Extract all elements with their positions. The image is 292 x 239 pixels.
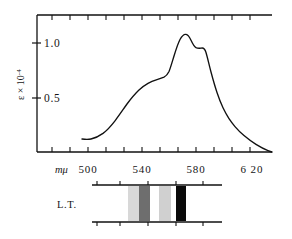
x-tick-label-580: 580 bbox=[186, 163, 205, 175]
y-axis-label-base: ε × 10 bbox=[15, 75, 26, 100]
x-axis-unit-label: mμ bbox=[55, 164, 68, 175]
svg-text:ε × 10-4: ε × 10-4 bbox=[15, 69, 27, 100]
lt-band-weak-1 bbox=[128, 186, 139, 221]
lt-band-strong-1 bbox=[139, 186, 150, 221]
lt-band-strip-panel: L.T. bbox=[57, 181, 222, 226]
x-tick-label-500: 500 bbox=[78, 163, 97, 175]
y-axis-label-exponent: -4 bbox=[15, 69, 23, 75]
x-tick-label-540: 540 bbox=[132, 163, 151, 175]
top-axis-ticks bbox=[52, 15, 250, 20]
y-tick-label-1-0: 1.0 bbox=[44, 37, 60, 49]
x-tick-label-620: 6 20 bbox=[241, 163, 264, 175]
absorption-spectrum-figure: 1.0 0.5 ε × 10-4 mμ 500 540 580 6 20 bbox=[0, 0, 292, 239]
absorption-curve bbox=[82, 34, 272, 152]
y-tick-label-0-5: 0.5 bbox=[44, 92, 60, 104]
bottom-axis-ticks bbox=[52, 147, 250, 152]
lt-panel-label: L.T. bbox=[57, 199, 77, 210]
plot-frame bbox=[37, 15, 272, 152]
lt-absorption-bands bbox=[128, 186, 186, 221]
figure-canvas: 1.0 0.5 ε × 10-4 mμ 500 540 580 6 20 bbox=[0, 0, 292, 239]
lt-band-weak-2 bbox=[159, 186, 171, 221]
lt-band-very-strong bbox=[176, 186, 186, 221]
y-axis-label: ε × 10-4 bbox=[15, 69, 27, 100]
